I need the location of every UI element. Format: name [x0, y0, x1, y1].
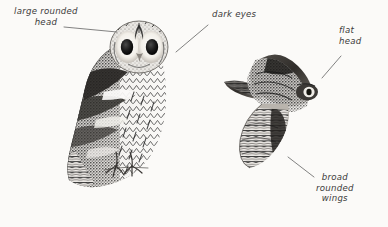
annotation-label-dark-eyes: dark eyes — [212, 9, 256, 20]
eye-left — [121, 39, 133, 55]
annotation-label-flat-head: flathead — [339, 25, 361, 46]
annotation-label-large-rounded-head: large roundedhead — [14, 6, 78, 27]
annotation-line: head — [339, 36, 361, 47]
annotation-line: dark eyes — [212, 9, 256, 20]
annotation-label-broad-rounded-wings: broadroundedwings — [316, 172, 354, 204]
annotation-line: large rounded — [14, 6, 78, 17]
annotation-line: broad — [316, 172, 354, 183]
annotation-line: head — [14, 17, 78, 28]
annotation-line: wings — [316, 193, 354, 204]
flying-owl-eye — [306, 89, 311, 95]
eye-right — [146, 39, 158, 55]
annotation-line: rounded — [316, 183, 354, 194]
annotation-line: flat — [339, 25, 361, 36]
